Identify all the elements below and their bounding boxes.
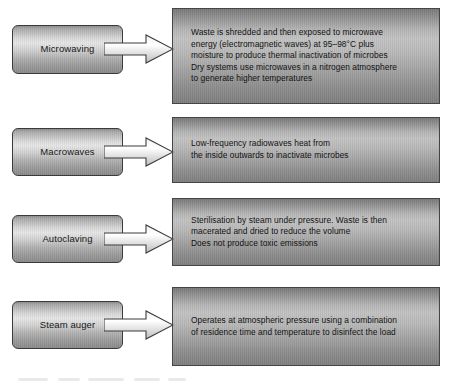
right-arrow-icon	[104, 310, 174, 340]
process-diagram: Microwaving Waste is shredded and then e…	[0, 0, 452, 388]
right-arrow-icon	[104, 137, 174, 167]
process-label-text: Steam auger	[40, 320, 96, 330]
scan-artifact	[18, 378, 48, 381]
scan-artifact	[58, 378, 80, 381]
scan-artifact	[134, 378, 160, 381]
right-arrow-icon	[104, 224, 174, 254]
scan-artifact	[168, 378, 186, 381]
description-panel-microwaving[interactable]: Waste is shredded and then exposed to mi…	[172, 8, 440, 104]
description-panel-autoclaving[interactable]: Sterilisation by steam under pressure. W…	[172, 198, 440, 266]
description-panel-steam-auger[interactable]: Operates at atmospheric pressure using a…	[172, 287, 440, 366]
description-text: Operates at atmospheric pressure using a…	[173, 315, 407, 338]
description-text: Waste is shredded and then exposed to mi…	[173, 27, 407, 85]
description-text: Low-frequency radiowaves heat from the i…	[173, 138, 359, 161]
process-label-text: Macrowaves	[40, 147, 94, 157]
description-panel-macrowaves[interactable]: Low-frequency radiowaves heat from the i…	[172, 117, 440, 183]
process-label-text: Autoclaving	[42, 234, 92, 244]
description-text: Sterilisation by steam under pressure. W…	[173, 215, 397, 250]
scan-artifact	[88, 378, 124, 381]
process-label-text: Microwaving	[41, 44, 95, 54]
right-arrow-icon	[104, 34, 174, 64]
